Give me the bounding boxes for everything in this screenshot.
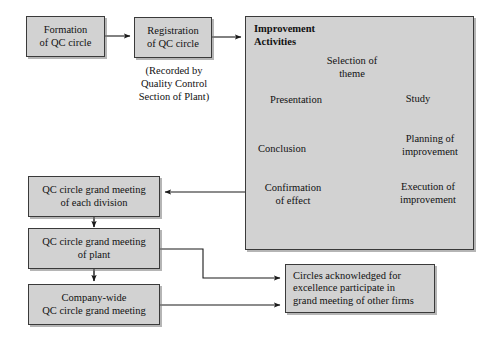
cycle-step-conclusion: Conclusion (258, 143, 306, 156)
box-circles-acknowledged[interactable]: Circles acknowledged for excellence part… (285, 264, 435, 313)
box-formation-of-qc-circle[interactable]: Formation of QC circle (26, 16, 105, 57)
diagram-canvas: Improvement Activities Selection of them… (0, 0, 494, 350)
cycle-step-planning-of-improvement: Planning of improvement (402, 133, 458, 158)
box-qc-circle-grand-meeting-of-each-division[interactable]: QC circle grand meeting of each division (28, 176, 160, 217)
box-acknowledged-label: Circles acknowledged for excellence part… (286, 270, 417, 307)
cycle-step-execution-of-improvement: Execution of improvement (400, 181, 456, 206)
box-company-meeting-label: Company-wide QC circle grand meeting (39, 292, 149, 317)
cycle-step-study: Study (406, 93, 431, 106)
improvement-activities-title: Improvement Activities (254, 23, 315, 49)
cycle-step-selection-of-theme: Selection of theme (327, 55, 377, 80)
box-division-meeting-label: QC circle grand meeting of each division (39, 184, 149, 209)
connector-plant-to-acknowledged (160, 249, 280, 278)
box-company-wide-qc-circle-grand-meeting[interactable]: Company-wide QC circle grand meeting (28, 284, 160, 325)
box-registration-label: Registration of QC circle (144, 25, 202, 50)
box-qc-circle-grand-meeting-of-plant[interactable]: QC circle grand meeting of plant (28, 228, 160, 269)
cycle-step-presentation: Presentation (270, 94, 322, 107)
note-recorded-by-quality-control: (Recorded by Quality Control Section of … (134, 64, 214, 103)
cycle-step-confirmation-of-effect: Confirmation of effect (265, 182, 322, 207)
box-plant-meeting-label: QC circle grand meeting of plant (39, 236, 149, 261)
box-registration-of-qc-circle[interactable]: Registration of QC circle (134, 17, 212, 58)
box-formation-label: Formation of QC circle (37, 24, 95, 49)
